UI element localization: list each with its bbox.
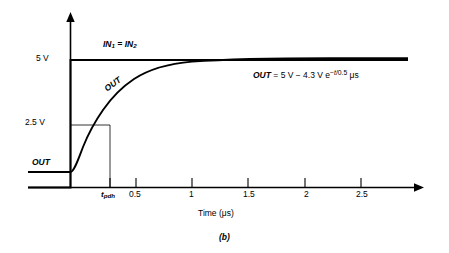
x-tick-label-1p5: 1.5	[243, 190, 255, 199]
y-tick-label-2p5v: 2.5 V	[25, 118, 45, 127]
x-tick-label-tpdh: tpdh	[101, 191, 115, 200]
x-axis-title: Time (μs)	[198, 209, 234, 218]
x-tick-label-2p5: 2.5	[356, 190, 368, 199]
x-tick-label-2: 2	[304, 190, 309, 199]
x-tick-label-0p5: 0.5	[129, 190, 141, 199]
input-signal-label: IN1 = IN2	[103, 40, 137, 50]
y-tick-label-5v: 5 V	[36, 54, 49, 63]
output-baseline-label: OUT	[32, 158, 50, 167]
y-axis-arrowhead	[66, 12, 74, 22]
figure-container: IN1 = IN2 5 V 2.5 V OUT OUT OUT = 5 V − …	[0, 0, 449, 253]
x-axis-ticks	[110, 178, 361, 188]
x-axis-arrowhead	[414, 183, 424, 191]
figure-caption: (b)	[219, 233, 230, 242]
output-equation-annotation: OUT = 5 V − 4.3 V e−t/0.5 μs	[253, 70, 359, 80]
x-tick-label-1: 1	[189, 190, 194, 199]
